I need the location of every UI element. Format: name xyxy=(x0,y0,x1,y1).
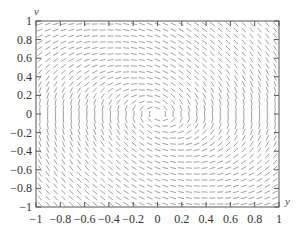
axis-ticks xyxy=(36,21,279,207)
direction-field-chart: −1−0.8−0.6−0.4−0.200.20.40.60.81 −1−0.8−… xyxy=(0,0,300,234)
y-tick-label: −0.6 xyxy=(10,163,32,177)
y-tick-label: 0.4 xyxy=(17,70,32,84)
x-tick-label: −1 xyxy=(30,212,43,226)
y-tick-label: −1 xyxy=(19,200,32,214)
y-tick-label: 1 xyxy=(26,14,32,28)
x-tick-label: −0.4 xyxy=(98,212,120,226)
y-axis-label: v xyxy=(34,5,39,17)
y-tick-label: 0 xyxy=(26,107,32,121)
y-tick-label: 0.2 xyxy=(17,88,32,102)
y-tick-label: 0.8 xyxy=(17,33,32,47)
x-tick-label: −0.2 xyxy=(122,212,144,226)
x-tick-label: 0.4 xyxy=(199,212,214,226)
y-tick-label: 0.6 xyxy=(17,51,32,65)
x-tick-label: −0.8 xyxy=(49,212,71,226)
y-tick-label: −0.8 xyxy=(10,181,32,195)
y-tick-labels: −1−0.8−0.6−0.4−0.200.20.40.60.81 xyxy=(10,14,32,214)
slope-segments xyxy=(37,22,278,207)
x-tick-label: −0.6 xyxy=(74,212,96,226)
x-tick-label: 0 xyxy=(155,212,161,226)
x-axis-label: y xyxy=(284,195,290,207)
y-tick-label: −0.2 xyxy=(10,126,32,140)
x-tick-label: 0.6 xyxy=(223,212,238,226)
x-tick-label: 1 xyxy=(276,212,282,226)
x-tick-label: 0.8 xyxy=(247,212,262,226)
x-tick-labels: −1−0.8−0.6−0.4−0.200.20.40.60.81 xyxy=(30,212,282,226)
x-tick-label: 0.2 xyxy=(174,212,189,226)
y-tick-label: −0.4 xyxy=(10,144,32,158)
plot-frame xyxy=(36,21,279,207)
